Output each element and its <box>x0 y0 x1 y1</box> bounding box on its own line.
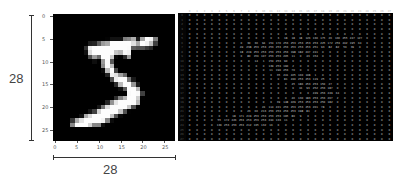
matrix-cell: 0 <box>275 136 282 141</box>
y-tick-label: 25 <box>42 127 48 133</box>
width-dimension-bar <box>53 157 176 158</box>
x-tick-label: 15 <box>119 144 125 150</box>
y-tick-mark <box>50 107 53 108</box>
matrix-cell: 0 <box>326 136 333 141</box>
x-tick-label: 0 <box>53 144 56 150</box>
matrix-cell: 0 <box>223 136 230 141</box>
matrix-cell: 0 <box>238 136 245 141</box>
matrix-cell: 0 <box>297 136 304 141</box>
matrix-cell: 0 <box>282 136 289 141</box>
y-tick-label: 10 <box>42 59 48 65</box>
matrix-cell: 0 <box>267 136 274 141</box>
x-tick-mark <box>55 141 56 143</box>
width-dimension-label: 28 <box>103 162 117 177</box>
y-tick-label: 0 <box>42 13 45 19</box>
matrix-cell: 0 <box>349 136 356 141</box>
y-tick-mark <box>50 62 53 63</box>
y-tick-mark <box>50 39 53 40</box>
matrix-cell: 0 <box>216 136 223 141</box>
matrix-cell: 0 <box>289 136 296 141</box>
x-tick-mark <box>142 141 143 143</box>
y-tick-label: 15 <box>42 81 48 87</box>
pixel-value-matrix: 0123456789101112131415161718192021222324… <box>178 10 393 142</box>
matrix-cell: 0 <box>304 136 311 141</box>
x-tick-mark <box>99 141 100 143</box>
y-tick-mark <box>50 16 53 17</box>
matrix-cell: 0 <box>363 136 370 141</box>
y-tick-mark <box>50 130 53 131</box>
matrix-cell: 0 <box>386 136 393 141</box>
digit-image <box>53 14 175 141</box>
matrix-cell: 0 <box>260 136 267 141</box>
matrix-cell: 0 <box>201 136 208 141</box>
matrix-cell: 0 <box>230 136 237 141</box>
x-tick-mark <box>164 141 165 143</box>
matrix-cell: 0 <box>341 136 348 141</box>
y-tick-label: 20 <box>42 104 48 110</box>
height-dimension-label: 28 <box>9 71 23 86</box>
x-tick-label: 25 <box>162 144 168 150</box>
x-tick-label: 10 <box>97 144 103 150</box>
matrix-cell: 0 <box>245 136 252 141</box>
matrix-cell: 0 <box>334 136 341 141</box>
matrix-cell: 0 <box>378 136 385 141</box>
matrix-body: 0000000000000000000000000000010000000000… <box>178 13 393 141</box>
matrix-cell: 0 <box>208 136 215 141</box>
matrix-row-index: 27 <box>178 136 186 141</box>
x-tick-label: 20 <box>140 144 146 150</box>
matrix-cell: 0 <box>186 136 193 141</box>
matrix-cell: 0 <box>312 136 319 141</box>
x-tick-mark <box>121 141 122 143</box>
pixel <box>171 136 175 141</box>
pixel-grid <box>53 14 175 141</box>
matrix-cell: 0 <box>356 136 363 141</box>
y-tick-mark <box>50 84 53 85</box>
matrix-cell: 0 <box>371 136 378 141</box>
height-dimension-bar <box>31 15 32 141</box>
matrix-cell: 0 <box>319 136 326 141</box>
x-tick-mark <box>77 141 78 143</box>
matrix-cell: 0 <box>193 136 200 141</box>
y-tick-label: 5 <box>42 36 45 42</box>
x-tick-label: 5 <box>75 144 78 150</box>
matrix-cell: 0 <box>253 136 260 141</box>
